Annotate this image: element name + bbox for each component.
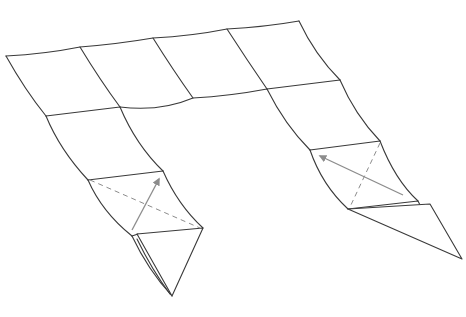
- row2-edge-mid: [120, 89, 267, 108]
- row2-edge-left: [46, 107, 120, 116]
- left-fold-arrow: [132, 179, 159, 230]
- top-grid: [6, 21, 340, 116]
- right-leg-folded-triangle: [348, 204, 462, 259]
- top-edge: [6, 21, 299, 56]
- right-leg-crossline: [310, 141, 380, 150]
- right-leg: [267, 80, 462, 259]
- grid-vertical-5: [299, 21, 340, 80]
- left-leg-folded-triangle: [137, 228, 203, 296]
- right-leg-lower-inner: [380, 141, 418, 201]
- row2-edge-right: [267, 80, 340, 89]
- left-leg-outer-edge: [46, 116, 88, 180]
- grid-vertical-1: [6, 56, 46, 116]
- right-leg-outer-edge: [267, 89, 310, 150]
- right-valley-fold: [350, 143, 380, 207]
- left-leg: [46, 107, 203, 296]
- left-leg-lower-inner: [163, 171, 203, 228]
- grid-vertical-4: [227, 29, 267, 89]
- grid-vertical-3: [153, 38, 193, 98]
- right-leg-lower-outer: [310, 150, 348, 209]
- origami-diagram: [0, 0, 466, 317]
- grid-vertical-2: [80, 47, 120, 107]
- left-leg-inner-edge: [120, 107, 163, 171]
- right-leg-inner-edge: [340, 80, 380, 141]
- left-leg-crossline: [88, 171, 163, 180]
- right-fold-arrow: [320, 156, 403, 195]
- left-valley-fold: [90, 180, 200, 228]
